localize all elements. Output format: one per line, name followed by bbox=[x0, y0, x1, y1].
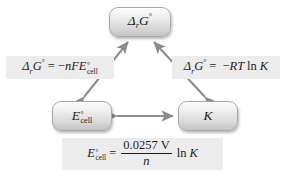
fraction-numerator: 0.0257V bbox=[121, 139, 171, 152]
bottom-ecell-subscript: cell bbox=[95, 154, 106, 160]
nernst-fraction: 0.0257Vn bbox=[121, 139, 171, 168]
right-equals: = bbox=[209, 59, 216, 73]
right-degree: ° bbox=[203, 58, 206, 67]
right-gibbs-variable: G bbox=[194, 59, 203, 73]
node-e-cell-standard[interactable]: E°cell bbox=[52, 101, 112, 131]
degree-superscript: ° bbox=[149, 12, 152, 21]
node-k-label: K bbox=[197, 108, 218, 124]
node-delta-g-label: ΔrG° bbox=[122, 12, 158, 32]
right-ln-operator: ln bbox=[247, 59, 257, 73]
bottom-k-variable: K bbox=[189, 146, 197, 160]
left-faraday-variable: F bbox=[71, 59, 79, 73]
node-delta-r-g-standard[interactable]: ΔrG° bbox=[109, 7, 171, 37]
right-gas-constant: R bbox=[229, 59, 237, 73]
formula-left-text: ΔrG°=−nFE°cell bbox=[22, 59, 98, 76]
left-minus-sign: − bbox=[58, 59, 65, 73]
ecell-sup-sub-stack: °cell bbox=[81, 111, 93, 123]
left-ecell-sup-sub-stack: °cell bbox=[87, 62, 98, 73]
left-ecell-subscript: cell bbox=[87, 68, 98, 74]
node-ecell-label: E°cell bbox=[66, 108, 98, 124]
left-delta-symbol: Δ bbox=[22, 59, 29, 73]
ecell-variable: E bbox=[72, 108, 80, 123]
nernst-constant-unit: V bbox=[161, 138, 170, 152]
gibbs-variable: G bbox=[139, 13, 149, 28]
formula-bottom-text: E°cell=0.0257VnlnK bbox=[87, 139, 198, 168]
node-equilibrium-constant[interactable]: K bbox=[178, 101, 238, 131]
formula-delta-g-nernst-faraday: ΔrG°=−nFE°cell bbox=[6, 56, 114, 79]
left-gibbs-variable: G bbox=[33, 59, 42, 73]
right-k-variable: K bbox=[260, 59, 268, 73]
bottom-ln-operator: ln bbox=[177, 146, 187, 160]
formula-delta-g-rt-ln-k: ΔrG°=−RTlnK bbox=[172, 56, 280, 79]
diagram-canvas: ΔrG° E°cell K ΔrG°=−nFE°cell ΔrG°=−RTlnK… bbox=[0, 0, 285, 174]
fraction-denominator: n bbox=[141, 155, 151, 168]
ecell-subscript: cell bbox=[81, 117, 93, 123]
bottom-equals: = bbox=[109, 146, 116, 160]
bottom-ecell-sup-sub-stack: °cell bbox=[95, 149, 106, 160]
formula-ecell-nernst: E°cell=0.0257VnlnK bbox=[62, 138, 223, 170]
nernst-constant-value: 0.0257 bbox=[123, 138, 157, 152]
left-degree: ° bbox=[42, 58, 45, 67]
bottom-ecell-variable: E bbox=[87, 146, 95, 160]
right-temperature: T bbox=[237, 59, 244, 73]
k-variable: K bbox=[203, 108, 212, 123]
delta-symbol: Δ bbox=[128, 13, 136, 28]
formula-right-text: ΔrG°=−RTlnK bbox=[184, 59, 268, 76]
left-equals: = bbox=[48, 59, 55, 73]
left-ecell-variable: E bbox=[79, 59, 87, 73]
